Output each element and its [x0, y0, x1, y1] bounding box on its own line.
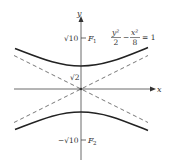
eq-rhs: = 1 [142, 33, 155, 42]
focus-top-sub: 1 [93, 38, 97, 44]
upper-branch [15, 48, 148, 67]
hyperbola-diagram: y x √10 F 1 √2 −√10 F 2 y² 2 − x² 8 = 1 [0, 0, 169, 163]
focus-top-value: √10 [64, 34, 79, 43]
lower-branch [15, 112, 148, 131]
x-axis-arrow-icon [150, 87, 156, 92]
eq-den2: 8 [133, 38, 138, 47]
y-axis-label: y [76, 9, 82, 18]
eq-den1: 2 [114, 38, 119, 47]
equation: y² 2 − x² 8 = 1 [111, 28, 155, 47]
vertex-label: √2 [70, 73, 80, 82]
eq-num1: y² [111, 28, 119, 37]
eq-minus: − [123, 33, 129, 42]
focus-bottom-sub: 2 [93, 140, 97, 146]
focus-bottom-value: −√10 [58, 136, 79, 145]
x-axis-label: x [157, 85, 162, 94]
eq-num2: x² [131, 28, 138, 37]
origin-point [80, 88, 83, 91]
